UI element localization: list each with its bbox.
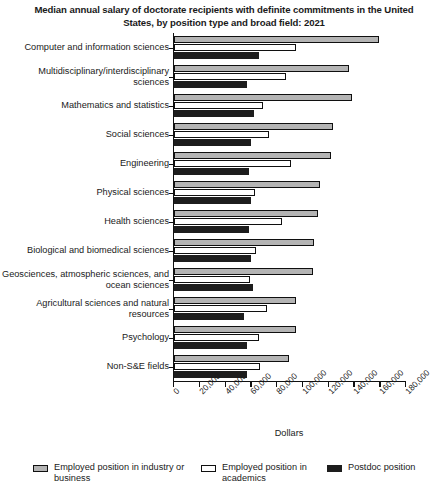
chart-title: Median annual salary of doctorate recipi… — [26, 4, 422, 29]
legend-item[interactable]: Postdoc position — [327, 462, 423, 473]
bar-row — [174, 305, 405, 312]
bar-row — [174, 81, 405, 88]
x-axis-title: Dollars — [173, 428, 405, 438]
bar-row — [174, 297, 405, 304]
bar-row — [174, 102, 405, 109]
bar-row — [174, 36, 405, 43]
y-axis-tick — [169, 48, 174, 49]
plot-area: 020,00040,00060,00080,000100,000120,0001… — [173, 33, 405, 381]
bar[interactable] — [174, 152, 331, 159]
y-axis-category-label: Mathematics and statistics — [1, 100, 169, 111]
y-axis-category-label: Health sciences — [1, 216, 169, 227]
y-axis-category-label: Multidisciplinary/interdisciplinary scie… — [1, 66, 169, 88]
bar-row — [174, 44, 405, 51]
bar[interactable] — [174, 247, 256, 254]
bar-row — [174, 160, 405, 167]
bar-row — [174, 218, 405, 225]
bar[interactable] — [174, 160, 291, 167]
bar-row — [174, 110, 405, 117]
bar-row — [174, 189, 405, 196]
bar-row — [174, 65, 405, 72]
y-axis-category-label: Engineering — [1, 158, 169, 169]
bar-row — [174, 139, 405, 146]
bar[interactable] — [174, 355, 289, 362]
bar[interactable] — [174, 65, 349, 72]
bar-row — [174, 326, 405, 333]
bar-row — [174, 355, 405, 362]
bar[interactable] — [174, 81, 247, 88]
chart-legend: Employed position in industry or busines… — [33, 462, 423, 485]
bar-row — [174, 73, 405, 80]
bar[interactable] — [174, 94, 352, 101]
legend-swatch-icon — [201, 465, 216, 472]
bar[interactable] — [174, 276, 250, 283]
bar-group — [174, 181, 405, 206]
bar-group — [174, 36, 405, 61]
legend-label: Employed position in academics — [222, 462, 327, 485]
legend-item[interactable]: Employed position in industry or busines… — [33, 462, 201, 485]
y-axis-category-label: Physical sciences — [1, 187, 169, 198]
legend-item[interactable]: Employed position in academics — [201, 462, 327, 485]
y-axis-tick — [169, 135, 174, 136]
bar[interactable] — [174, 313, 244, 320]
bar[interactable] — [174, 102, 263, 109]
y-axis-tick — [169, 164, 174, 165]
bar-row — [174, 284, 405, 291]
bar[interactable] — [174, 305, 267, 312]
y-axis-category-label: Biological and biomedical sciences — [1, 245, 169, 256]
bar[interactable] — [174, 189, 255, 196]
bar[interactable] — [174, 52, 259, 59]
bar[interactable] — [174, 168, 249, 175]
bar[interactable] — [174, 181, 320, 188]
bar-row — [174, 268, 405, 275]
bar[interactable] — [174, 297, 296, 304]
bar[interactable] — [174, 255, 251, 262]
bar-row — [174, 123, 405, 130]
bar-row — [174, 276, 405, 283]
y-axis-category-label: Social sciences — [1, 129, 169, 140]
bar-group — [174, 152, 405, 177]
bar[interactable] — [174, 342, 247, 349]
bar[interactable] — [174, 44, 296, 51]
bar[interactable] — [174, 284, 253, 291]
y-axis-tick — [169, 222, 174, 223]
bar[interactable] — [174, 218, 282, 225]
legend-swatch-icon — [33, 465, 48, 472]
bar-row — [174, 52, 405, 59]
x-axis-tick-label: 0 — [171, 386, 181, 396]
y-axis-tick — [169, 77, 174, 78]
bar-row — [174, 168, 405, 175]
bar[interactable] — [174, 123, 333, 130]
y-axis-tick — [169, 251, 174, 252]
legend-label: Employed position in industry or busines… — [54, 462, 201, 485]
bar[interactable] — [174, 210, 318, 217]
bar[interactable] — [174, 73, 286, 80]
bar-row — [174, 131, 405, 138]
y-axis-tick — [169, 280, 174, 281]
bar-group — [174, 210, 405, 235]
y-axis-tick — [169, 309, 174, 310]
bar[interactable] — [174, 326, 296, 333]
x-axis-tick-label: 180,000 — [403, 368, 431, 396]
bar[interactable] — [174, 139, 251, 146]
bar[interactable] — [174, 197, 251, 204]
bar-row — [174, 181, 405, 188]
y-axis-tick — [169, 193, 174, 194]
bar-group — [174, 268, 405, 293]
bar-group — [174, 326, 405, 351]
y-axis-category-label: Computer and information sciences — [1, 42, 169, 53]
bar-row — [174, 94, 405, 101]
y-axis-category-label: Agricultural sciences and natural resour… — [1, 298, 169, 320]
bar-row — [174, 255, 405, 262]
bar[interactable] — [174, 268, 313, 275]
bar[interactable] — [174, 131, 269, 138]
bar[interactable] — [174, 36, 379, 43]
bar-row — [174, 239, 405, 246]
bar[interactable] — [174, 334, 259, 341]
bar[interactable] — [174, 110, 254, 117]
bar[interactable] — [174, 363, 260, 370]
legend-swatch-icon — [327, 465, 342, 472]
bar-row — [174, 313, 405, 320]
bar[interactable] — [174, 239, 314, 246]
bar[interactable] — [174, 226, 249, 233]
